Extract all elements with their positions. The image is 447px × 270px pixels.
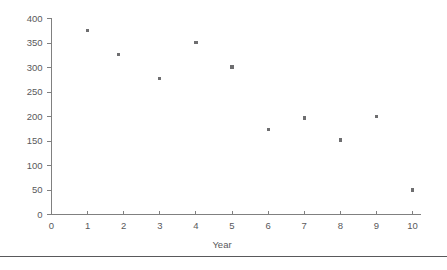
y-tick-label-200: 200: [27, 111, 43, 122]
data-point: [411, 188, 414, 191]
y-tick-label-350: 350: [27, 37, 43, 48]
y-axis: 050100150200250300350400: [27, 13, 52, 220]
x-axis-title: Year: [212, 239, 231, 250]
data-point: [158, 77, 161, 80]
x-tick-label-4: 4: [193, 220, 198, 231]
x-tick-label-10: 10: [407, 220, 418, 231]
y-tick-label-250: 250: [27, 86, 43, 97]
data-point: [375, 115, 378, 118]
y-tick-label-100: 100: [27, 160, 43, 171]
x-tick-label-6: 6: [265, 220, 270, 231]
data-point: [339, 138, 342, 141]
y-tick-label-150: 150: [27, 135, 43, 146]
data-point: [194, 41, 197, 44]
plot-area: 050100150200250300350400 012345678910 Ye…: [0, 0, 447, 270]
y-tick-label-50: 50: [32, 184, 43, 195]
y-tick-label-0: 0: [37, 209, 42, 220]
data-point: [230, 65, 233, 68]
scatter-chart: 050100150200250300350400 012345678910 Ye…: [0, 0, 447, 270]
x-axis: 012345678910: [49, 211, 421, 231]
data-point: [117, 53, 120, 56]
data-point: [86, 29, 89, 32]
data-point: [267, 128, 270, 131]
x-tick-label-7: 7: [302, 220, 307, 231]
x-tick-label-0: 0: [49, 220, 54, 231]
x-tick-label-3: 3: [157, 220, 162, 231]
x-tick-label-8: 8: [338, 220, 343, 231]
x-tick-label-1: 1: [85, 220, 90, 231]
data-points: [86, 29, 414, 191]
x-tick-label-9: 9: [374, 220, 379, 231]
y-tick-label-300: 300: [27, 62, 43, 73]
data-point: [303, 116, 306, 119]
x-tick-label-5: 5: [229, 220, 234, 231]
x-tick-label-2: 2: [121, 220, 126, 231]
y-tick-label-400: 400: [27, 13, 43, 24]
